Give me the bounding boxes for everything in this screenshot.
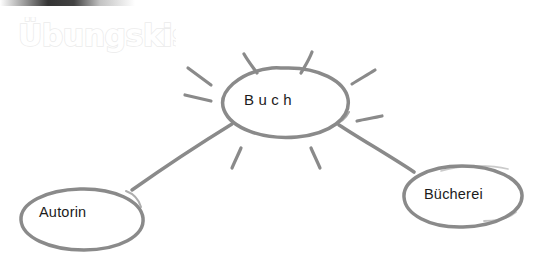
- node-autorin[interactable]: [21, 189, 143, 250]
- ray-5-icon: [311, 148, 320, 168]
- diagram-canvas: Übungskiste Buch Autorin Bücherei: [0, 0, 541, 263]
- node-buecherei[interactable]: [404, 166, 522, 227]
- node-buch-outline: [223, 68, 349, 138]
- ray-8-icon: [188, 68, 211, 85]
- ray-7-icon: [185, 95, 211, 101]
- ray-4-icon: [357, 116, 382, 121]
- ray-3-icon: [352, 70, 375, 84]
- edge-buch-buecherei: [339, 125, 414, 172]
- edge-buch-autorin: [132, 124, 232, 190]
- mindmap-drawing: [0, 0, 541, 263]
- node-buch[interactable]: [223, 68, 349, 138]
- ray-6-icon: [232, 148, 241, 168]
- node-autorin-outline: [21, 189, 143, 250]
